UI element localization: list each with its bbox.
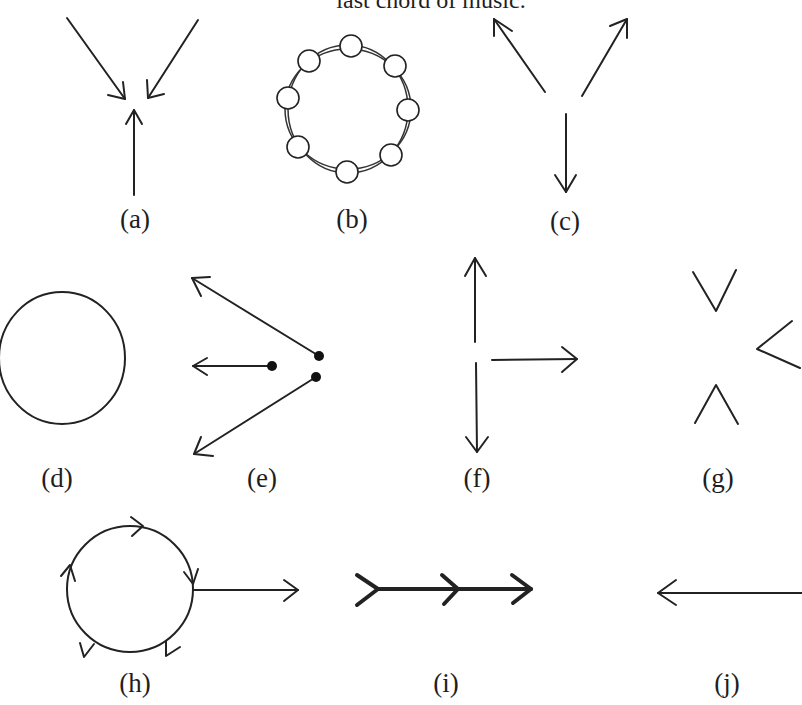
panel-b-ring-of-circles-icon	[277, 35, 419, 183]
panel-h-label: (h)	[95, 668, 175, 698]
panel-i-triple-chevron-arrow-icon	[357, 575, 531, 605]
panel-c-label: (c)	[525, 206, 605, 236]
panel-f-branching-arrows-icon	[465, 258, 577, 452]
panel-g-inward-chevrons-icon	[693, 270, 800, 424]
figure-stage: last chord of music.	[0, 0, 802, 705]
panel-c-diverging-arrows-icon	[494, 19, 627, 192]
panel-b-label: (b)	[312, 204, 392, 234]
panel-e-arrows-from-dots-icon	[192, 277, 324, 456]
panel-j-left-arrow-icon	[658, 580, 802, 605]
panel-d-circle-icon	[0, 292, 125, 424]
panel-h-loop-with-exit-icon	[61, 517, 298, 657]
diagram-canvas	[0, 0, 802, 705]
panel-j-label: (j)	[687, 668, 767, 698]
panel-i-label: (i)	[406, 668, 486, 698]
panel-d-label: (d)	[17, 463, 97, 493]
panel-g-label: (g)	[678, 463, 758, 493]
panel-a-label: (a)	[95, 204, 175, 234]
panel-f-label: (f)	[437, 463, 517, 493]
panel-e-label: (e)	[222, 463, 302, 493]
panel-a-converging-arrows-icon	[67, 18, 198, 195]
